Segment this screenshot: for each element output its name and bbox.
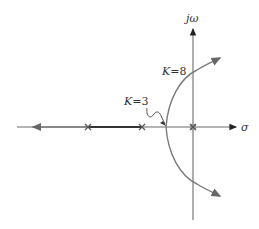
imag-axis-label: jω <box>183 12 198 25</box>
root-locus-diagram: σ jω K=8 K=3 <box>0 0 259 229</box>
real-axis-label: σ <box>241 121 249 134</box>
gain-label-crossing: K=8 <box>161 65 186 78</box>
pole-origin <box>190 124 196 130</box>
gain-label-breakaway: K=3 <box>123 95 148 108</box>
